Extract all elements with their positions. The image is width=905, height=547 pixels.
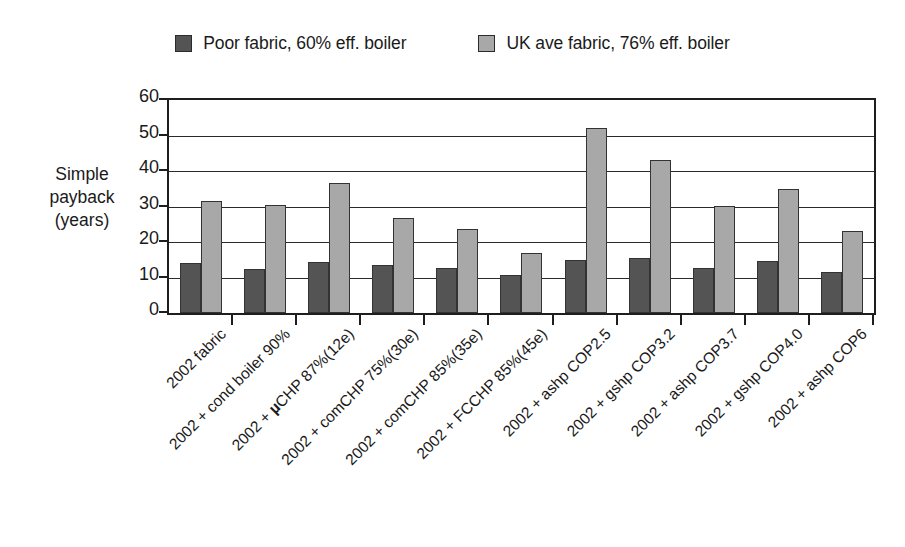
bar-poor-fabric (629, 258, 650, 313)
bar-group (297, 100, 361, 313)
bar-group (169, 100, 233, 313)
y-axis-tick-label: 10 (113, 264, 159, 285)
bar-uk-ave-fabric (778, 189, 799, 313)
y-axis-tick-label: 50 (113, 122, 159, 143)
bar-uk-ave-fabric (521, 253, 542, 313)
x-axis-tick-mark (423, 313, 425, 325)
bar-uk-ave-fabric (457, 229, 478, 313)
x-axis-tick-mark (680, 313, 682, 325)
x-axis-tick-mark (359, 313, 361, 325)
bar-poor-fabric (244, 269, 265, 313)
y-axis-tick-mark (159, 134, 167, 136)
y-axis-tick-label: 40 (113, 157, 159, 178)
bar-poor-fabric (308, 262, 329, 313)
x-axis-tick-marks (167, 313, 876, 325)
bar-group (233, 100, 297, 313)
bar-group (425, 100, 489, 313)
bar-uk-ave-fabric (265, 205, 286, 313)
y-axis-tick-mark (159, 240, 167, 242)
y-axis-tick-label: 20 (113, 228, 159, 249)
bar-poor-fabric (500, 275, 521, 313)
bar-chart: 0102030405060 2002 fabric2002 + cond boi… (0, 0, 905, 547)
y-axis-tick-mark (159, 98, 167, 100)
x-axis-tick-mark (744, 313, 746, 325)
bar-group (554, 100, 618, 313)
bar-uk-ave-fabric (714, 206, 735, 313)
bar-group (618, 100, 682, 313)
bar-uk-ave-fabric (201, 201, 222, 313)
x-axis-tick-mark (231, 313, 233, 325)
bar-uk-ave-fabric (650, 160, 671, 313)
y-axis-tick-label: 0 (113, 299, 159, 320)
bar-uk-ave-fabric (586, 128, 607, 313)
x-axis-tick-mark (872, 313, 874, 325)
x-axis-tick-mark (295, 313, 297, 325)
x-axis-tick-labels: 2002 fabric2002 + cond boiler 90%2002 + … (0, 325, 905, 525)
bar-poor-fabric (180, 263, 201, 313)
y-axis-tick-label: 60 (113, 86, 159, 107)
bar-group (682, 100, 746, 313)
bar-group (810, 100, 874, 313)
x-axis-tick-mark (487, 313, 489, 325)
y-axis-tick-marks (167, 98, 168, 311)
bar-uk-ave-fabric (393, 218, 414, 313)
bar-poor-fabric (693, 268, 714, 313)
y-axis-tick-label: 30 (113, 193, 159, 214)
x-axis-tick-mark (552, 313, 554, 325)
y-axis-tick-mark (159, 169, 167, 171)
bar-group (361, 100, 425, 313)
x-axis-tick-mark (808, 313, 810, 325)
y-axis-tick-mark (159, 276, 167, 278)
bar-poor-fabric (565, 260, 586, 313)
bar-uk-ave-fabric (329, 183, 350, 313)
bar-group (746, 100, 810, 313)
bar-poor-fabric (372, 265, 393, 313)
bar-poor-fabric (757, 261, 778, 313)
y-axis-tick-mark (159, 311, 167, 313)
bar-poor-fabric (436, 268, 457, 313)
y-axis-tick-mark (159, 205, 167, 207)
plot-area (167, 98, 876, 315)
x-axis-tick-mark (616, 313, 618, 325)
bar-group (489, 100, 553, 313)
bar-poor-fabric (821, 272, 842, 313)
bar-uk-ave-fabric (842, 231, 863, 313)
y-axis-tick-labels: 0102030405060 (113, 98, 159, 311)
